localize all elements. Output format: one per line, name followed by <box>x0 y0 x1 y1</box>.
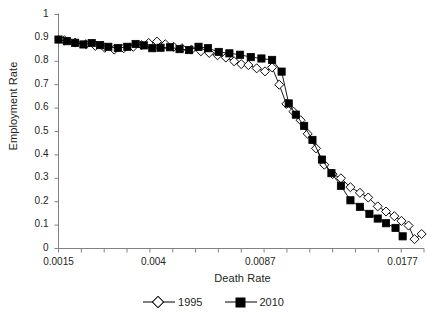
data-point-marker <box>252 64 261 73</box>
y-axis-tick-label: 0.5 <box>19 125 49 136</box>
legend-marker-filled-square <box>225 296 257 308</box>
data-point-marker <box>311 144 320 153</box>
data-point-marker <box>347 197 354 204</box>
data-point-marker <box>399 233 406 240</box>
x-axis-tick-label: 0.0177 <box>373 256 427 267</box>
x-axis-tick-label: 0.004 <box>123 256 183 267</box>
data-point-marker <box>80 41 87 48</box>
data-point-marker <box>318 156 325 163</box>
chart-legend: 1995 2010 <box>0 296 427 308</box>
data-point-marker <box>72 39 79 46</box>
legend-entry-2010: 2010 <box>225 296 284 308</box>
data-point-marker <box>55 36 62 43</box>
x-axis-title: Death Rate <box>58 272 427 284</box>
data-point-marker <box>278 68 285 75</box>
data-point-marker <box>269 56 276 63</box>
y-axis-tick-label: 0.9 <box>19 31 49 42</box>
data-point-marker <box>124 43 131 50</box>
data-point-marker <box>236 51 243 58</box>
data-point-marker <box>204 45 211 52</box>
data-point-marker <box>88 39 95 46</box>
data-point-marker <box>285 100 292 107</box>
y-axis-tick-label: 0.6 <box>19 101 49 112</box>
data-point-marker <box>301 122 308 129</box>
y-axis-tick-label: 0.2 <box>19 195 49 206</box>
data-point-marker <box>410 235 419 244</box>
legend-marker-open-diamond <box>143 296 175 308</box>
data-point-marker <box>132 40 139 47</box>
legend-entry-1995: 1995 <box>143 296 202 308</box>
data-point-marker <box>382 220 389 227</box>
legend-label-1995: 1995 <box>178 296 202 308</box>
data-point-marker <box>166 44 173 51</box>
data-point-marker <box>96 42 103 49</box>
data-point-marker <box>275 80 284 89</box>
data-point-marker <box>157 44 164 51</box>
y-axis-tick-label: 0 <box>19 242 49 253</box>
data-point-marker <box>176 46 183 53</box>
y-axis-tick-label: 1 <box>19 8 49 19</box>
data-point-marker <box>374 215 381 222</box>
data-point-marker <box>366 210 373 217</box>
y-axis-tick-label: 0.3 <box>19 171 49 182</box>
data-point-marker <box>185 46 192 53</box>
data-point-marker <box>355 188 364 197</box>
data-point-marker <box>337 182 344 189</box>
y-axis-tick-label: 0.4 <box>19 148 49 159</box>
x-axis-tick-label: 0.0015 <box>29 256 89 267</box>
series-line <box>59 40 403 237</box>
data-point-marker <box>195 43 202 50</box>
data-point-marker <box>292 111 299 118</box>
y-axis-title: Employment Rate <box>7 46 19 166</box>
data-point-marker <box>390 212 399 221</box>
data-point-marker <box>258 55 265 62</box>
data-point-marker <box>149 45 156 52</box>
data-point-marker <box>404 221 413 230</box>
series-line <box>64 40 421 239</box>
legend-label-2010: 2010 <box>260 296 284 308</box>
data-point-marker <box>215 48 222 55</box>
data-point-marker <box>417 229 426 238</box>
data-point-marker <box>328 170 335 177</box>
data-point-marker <box>63 38 70 45</box>
data-point-marker <box>247 53 254 60</box>
data-point-marker <box>309 136 316 143</box>
data-point-marker <box>105 43 112 50</box>
series-2010 <box>55 36 406 240</box>
x-axis-tick-label: 0.0087 <box>230 256 290 267</box>
data-point-marker <box>244 61 253 70</box>
chart-figure: Employment Rate Death Rate 1995 2010 00.… <box>0 0 427 321</box>
data-point-marker <box>356 203 363 210</box>
data-point-marker <box>392 224 399 231</box>
data-point-marker <box>114 44 121 51</box>
y-axis-tick-label: 0.1 <box>19 218 49 229</box>
data-point-marker <box>140 42 147 49</box>
data-point-marker <box>382 207 391 216</box>
y-axis-tick-label: 0.7 <box>19 78 49 89</box>
y-axis-tick-label: 0.8 <box>19 54 49 65</box>
data-point-marker <box>226 50 233 57</box>
